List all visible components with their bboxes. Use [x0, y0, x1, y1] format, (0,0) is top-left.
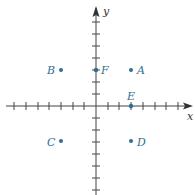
- label-b: B: [46, 64, 55, 77]
- point-e: [129, 104, 133, 108]
- label-d: D: [136, 136, 146, 149]
- label-c: C: [47, 136, 56, 149]
- point-a: [129, 68, 133, 72]
- point-d: [129, 139, 133, 143]
- point-b: [59, 68, 63, 72]
- label-a: A: [136, 64, 145, 77]
- label-f: F: [100, 64, 109, 77]
- y-axis: [92, 8, 100, 195]
- coordinate-plane: x y A B C D E: [0, 0, 195, 195]
- label-e: E: [126, 90, 135, 103]
- point-f: [94, 68, 98, 72]
- point-c: [59, 139, 63, 143]
- x-axis: [6, 102, 188, 110]
- x-axis-label: x: [187, 110, 194, 123]
- y-axis-label: y: [102, 5, 110, 18]
